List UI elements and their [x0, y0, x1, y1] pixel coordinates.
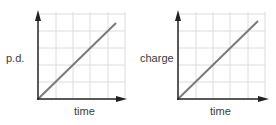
x-axis-label: time — [210, 105, 231, 117]
x-axis-arrow-icon — [258, 96, 269, 102]
diagram-canvas: p.d. time charge time — [0, 0, 276, 125]
x-axis-label: time — [74, 105, 95, 117]
y-axis-arrow-icon — [35, 10, 41, 21]
graph-pd-vs-time: p.d. time — [6, 10, 127, 117]
data-line — [38, 23, 116, 99]
data-line — [178, 21, 258, 99]
y-axis-arrow-icon — [175, 10, 181, 21]
y-axis-label: charge — [140, 52, 174, 64]
y-axis-label: p.d. — [6, 52, 24, 64]
graph-charge-vs-time: charge time — [140, 10, 269, 117]
